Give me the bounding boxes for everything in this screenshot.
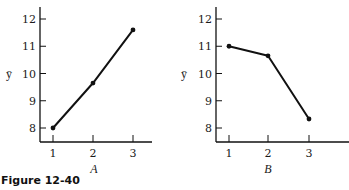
- y-tick-label: 12: [198, 13, 212, 26]
- x-tick-label: 1: [226, 147, 233, 160]
- data-point-marker: [227, 44, 232, 49]
- data-point-marker: [51, 126, 56, 131]
- data-point-marker: [131, 28, 136, 33]
- x-tick-label: 2: [90, 147, 97, 160]
- chart-panel-b: 89101112123ȳB: [181, 7, 349, 176]
- y-tick-label: 8: [29, 122, 36, 135]
- y-axis-title: ȳ: [181, 67, 187, 81]
- y-tick-label: 11: [198, 40, 212, 53]
- y-tick-label: 12: [22, 13, 36, 26]
- figure-caption: Figure 12-40: [1, 174, 80, 187]
- x-axis-title: A: [89, 162, 98, 176]
- y-tick-label: 9: [205, 95, 212, 108]
- x-axis-title: B: [264, 162, 272, 176]
- chart-panel-a: 89101112123ȳA: [6, 7, 152, 176]
- y-tick-label: 8: [205, 122, 212, 135]
- x-tick-label: 1: [50, 147, 57, 160]
- data-line: [53, 30, 133, 128]
- x-tick-label: 3: [306, 147, 313, 160]
- y-axis-title: ȳ: [6, 67, 12, 81]
- y-tick-label: 10: [198, 68, 212, 81]
- y-tick-label: 10: [22, 68, 36, 81]
- y-tick-label: 9: [29, 95, 36, 108]
- data-point-marker: [91, 81, 96, 86]
- x-tick-label: 3: [130, 147, 137, 160]
- x-tick-label: 2: [265, 147, 272, 160]
- data-point-marker: [307, 117, 312, 122]
- figure-12-40: 89101112123ȳA 89101112123ȳB: [0, 0, 349, 190]
- y-tick-label: 11: [22, 40, 36, 53]
- data-point-marker: [266, 53, 271, 58]
